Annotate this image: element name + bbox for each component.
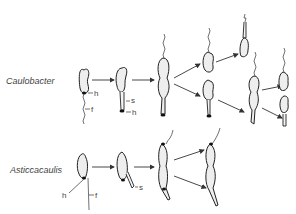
stalk-holdfast-label: h bbox=[132, 108, 136, 117]
stalk-label-2: s bbox=[139, 183, 143, 192]
caulobacter-mature-cell-top bbox=[240, 14, 248, 57]
caulobacter-predivisional-cell-2 bbox=[249, 52, 259, 124]
arrow bbox=[174, 64, 200, 78]
holdfast-label-2: h bbox=[62, 191, 66, 200]
arrow bbox=[174, 84, 200, 96]
caulobacter-swarmer-cell: h f bbox=[79, 69, 98, 124]
arrow bbox=[174, 176, 206, 188]
asticcacaulis-row: Asticcacaulis h f s bbox=[9, 128, 220, 210]
caulobacter-swarmer-daughter bbox=[203, 28, 213, 72]
stalk-label: s bbox=[131, 96, 135, 105]
asticcacaulis-swarmer-cell: h f bbox=[62, 154, 98, 210]
flagellum-label-2: f bbox=[95, 191, 98, 200]
arrow bbox=[216, 54, 238, 62]
caulobacter-stalked-cell: s h bbox=[116, 67, 136, 117]
caulobacter-predivisional-cell bbox=[158, 34, 169, 117]
flagellum-label: f bbox=[91, 105, 94, 114]
caulobacter-stalked-far-right bbox=[280, 96, 288, 126]
holdfast-label: h bbox=[94, 89, 98, 98]
arrow bbox=[218, 100, 244, 112]
arrow bbox=[174, 150, 204, 160]
asticcacaulis-daughter-cells bbox=[206, 128, 220, 206]
caulobacter-stalked-daughter bbox=[203, 80, 213, 118]
cell-cycle-diagram: Caulobacter h f s h bbox=[0, 0, 296, 214]
asticcacaulis-stalked-cell: s bbox=[117, 152, 143, 192]
caulobacter-label: Caulobacter bbox=[6, 76, 56, 86]
caulobacter-swarmer-far-right bbox=[279, 48, 288, 91]
asticcacaulis-predivisional-cell bbox=[159, 130, 173, 200]
caulobacter-row: Caulobacter h f s h bbox=[6, 14, 288, 126]
asticcacaulis-label: Asticcacaulis bbox=[9, 165, 63, 175]
arrow bbox=[262, 108, 282, 118]
